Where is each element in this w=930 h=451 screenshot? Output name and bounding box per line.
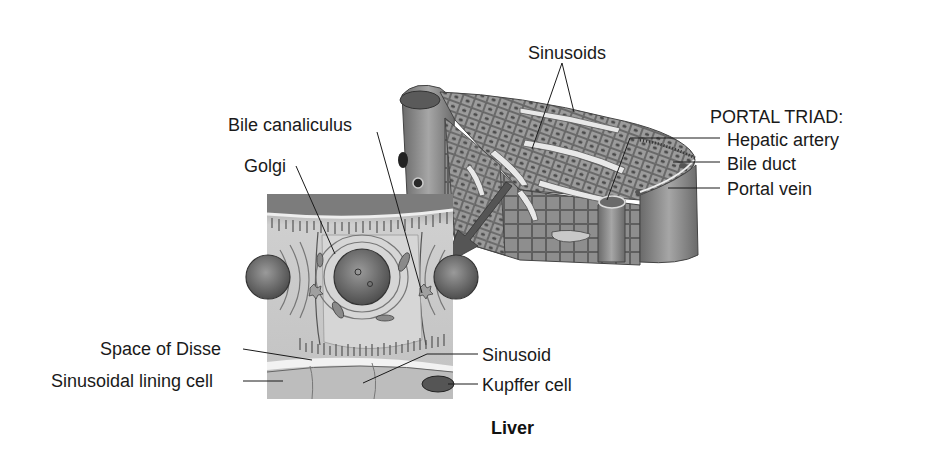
label-kupffer-cell: Kupffer cell	[482, 376, 572, 394]
nucleus-left	[246, 255, 290, 299]
liver-diagram: Sinusoids PORTAL TRIAD: Hepatic artery B…	[0, 0, 930, 451]
label-golgi: Golgi	[244, 157, 286, 175]
nucleus-center	[334, 249, 390, 305]
label-sinusoidal-lining-cell: Sinusoidal lining cell	[51, 372, 213, 390]
label-bile-canaliculus: Bile canaliculus	[228, 116, 352, 134]
hepatocyte-inset	[246, 194, 478, 399]
label-portal-vein: Portal vein	[727, 180, 812, 198]
label-portal-triad-heading: PORTAL TRIAD:	[710, 108, 843, 126]
label-sinusoid: Sinusoid	[482, 346, 551, 364]
label-sinusoids: Sinusoids	[528, 44, 606, 62]
label-hepatic-artery: Hepatic artery	[727, 131, 839, 149]
label-bile-duct: Bile duct	[727, 155, 796, 173]
label-space-of-disse: Space of Disse	[100, 340, 221, 358]
nucleus-right	[434, 255, 478, 299]
figure-title: Liver	[491, 419, 534, 437]
